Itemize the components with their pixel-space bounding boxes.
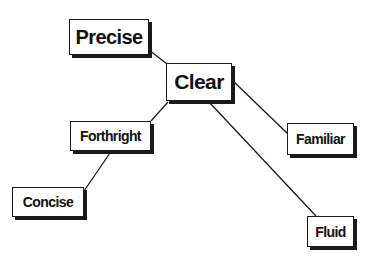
edge-clear-familiar: [232, 80, 288, 134]
node-fluid: Fluid: [307, 216, 354, 247]
edge-precise-clear: [149, 50, 167, 64]
edge-clear-fluid: [209, 102, 316, 216]
node-familiar: Familiar: [287, 123, 354, 155]
node-clear: Clear: [166, 63, 232, 101]
edge-clear-forthright: [151, 102, 168, 121]
edge-forthright-concise: [84, 153, 110, 191]
node-concise: Concise: [12, 187, 84, 217]
node-precise: Precise: [69, 19, 149, 55]
node-forthright: Forthright: [70, 121, 151, 151]
